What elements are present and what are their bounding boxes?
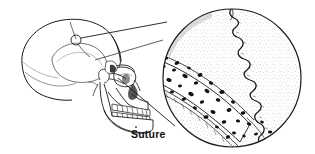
mastoid-process [88, 82, 98, 86]
leader-line-upper [81, 22, 167, 38]
cranium-lower-outline [22, 64, 72, 100]
magnified-inset-circle [144, 6, 310, 152]
styloid-process [93, 84, 98, 96]
figure-root: Suture [0, 0, 315, 154]
temporal-line-inner [57, 52, 102, 66]
cranium-shading [10, 46, 58, 120]
skull-lateral-view [10, 19, 153, 133]
suture-label: Suture [131, 129, 165, 140]
coronal-suture-line-lower [78, 44, 90, 57]
lambdoid-suture-line [25, 72, 76, 86]
leader-line-pointer [95, 40, 163, 60]
